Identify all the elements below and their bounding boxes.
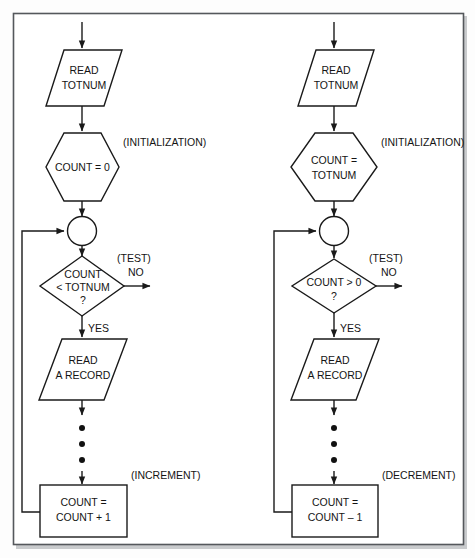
init-line2: TOTNUM (312, 169, 357, 181)
process-line2: A RECORD (308, 369, 363, 381)
test-line2: ? (331, 290, 337, 302)
test-line1: COUNT (64, 268, 102, 280)
ellipsis-dot (331, 441, 337, 447)
process-line2: A RECORD (56, 369, 111, 381)
update-line1: COUNT = (312, 496, 358, 508)
update-annotation: (DECREMENT) (382, 469, 456, 481)
test-annotation: (TEST) (369, 252, 403, 264)
ellipsis-dot (79, 457, 85, 463)
test-line1: COUNT > 0 (307, 276, 362, 288)
test-no-label: NO (381, 266, 397, 278)
read-input-line1: READ (321, 64, 351, 76)
update-line2: COUNT – 1 (308, 511, 363, 523)
process-line1: READ (320, 354, 350, 366)
init-line1: COUNT = 0 (55, 161, 110, 173)
ellipsis-dot (79, 441, 85, 447)
test-annotation: (TEST) (117, 252, 151, 264)
ellipsis-dot (79, 425, 85, 431)
ellipsis-dot (331, 457, 337, 463)
read-input-line2: TOTNUM (314, 79, 359, 91)
test-line2: < TOTNUM (56, 281, 110, 293)
init-annotation: (INITIALIZATION) (123, 136, 206, 148)
test-yes-label: YES (88, 322, 109, 334)
flowchart-figure: READ TOTNUM COUNT = 0 (INITIALIZATION) C… (0, 0, 475, 558)
junction-circle (320, 217, 349, 246)
flowchart-canvas: READ TOTNUM COUNT = 0 (INITIALIZATION) C… (0, 0, 475, 558)
ellipsis-dot (331, 425, 337, 431)
update-line2: COUNT + 1 (56, 511, 111, 523)
init-line1: COUNT = (311, 154, 357, 166)
test-yes-label: YES (340, 322, 361, 334)
update-annotation: (INCREMENT) (131, 469, 200, 481)
process-line1: READ (68, 354, 98, 366)
init-annotation: (INITIALIZATION) (381, 136, 464, 148)
read-input-line2: TOTNUM (62, 79, 107, 91)
read-input-line1: READ (69, 64, 99, 76)
test-no-label: NO (128, 266, 144, 278)
junction-circle (68, 217, 97, 246)
update-line1: COUNT = (60, 496, 106, 508)
test-line3: ? (80, 294, 86, 306)
